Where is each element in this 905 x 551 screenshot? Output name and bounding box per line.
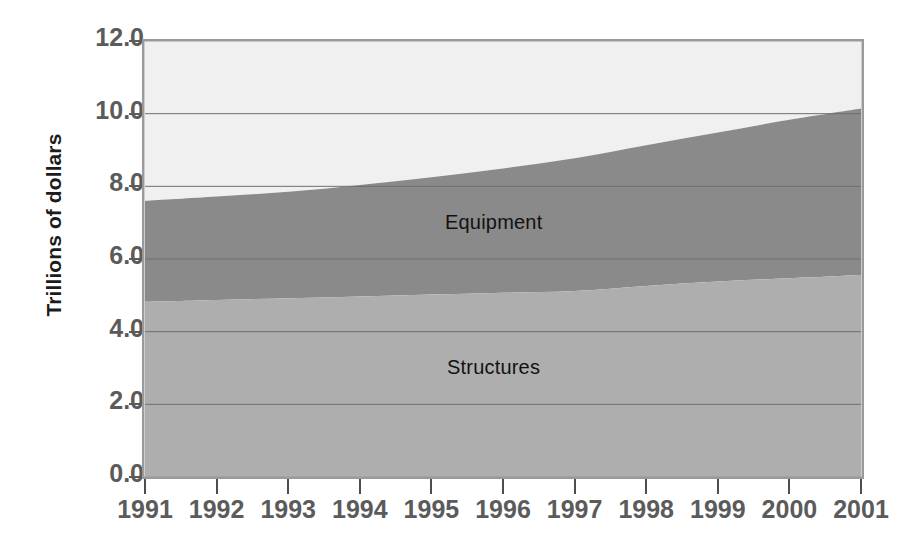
x-tick-label: 2001 [816, 497, 905, 522]
x-tick-mark [430, 479, 432, 494]
x-tick-mark [502, 479, 504, 494]
x-tick-mark [860, 479, 862, 494]
x-tick-mark [144, 479, 146, 494]
y-tick-label: 10.0 [66, 98, 144, 123]
x-tick-mark [788, 479, 790, 494]
x-tick-mark [216, 479, 218, 494]
y-tick-label: 12.0 [66, 25, 144, 50]
y-axis-title: Trillions of dollars [42, 75, 66, 375]
series-label-equipment: Equipment [445, 211, 542, 234]
x-tick-mark [574, 479, 576, 494]
series-label-structures: Structures [447, 356, 540, 379]
y-tick-label: 2.0 [66, 388, 144, 413]
stacked-area-chart: Trillions of dollars 0.02.04.06.08.010.0… [0, 0, 905, 551]
y-tick-label: 8.0 [66, 170, 144, 195]
x-tick-mark [359, 479, 361, 494]
y-tick-label: 6.0 [66, 243, 144, 268]
y-tick-label: 0.0 [66, 461, 144, 486]
x-tick-mark [287, 479, 289, 494]
y-tick-label: 4.0 [66, 316, 144, 341]
x-tick-mark [717, 479, 719, 494]
x-tick-mark [645, 479, 647, 494]
plot-area [142, 39, 864, 479]
